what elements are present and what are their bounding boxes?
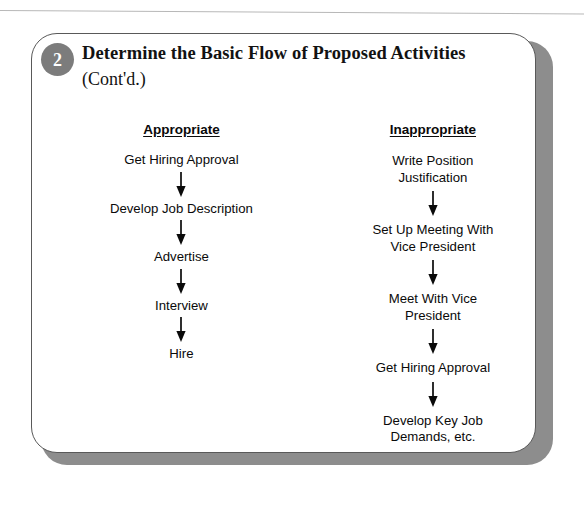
card-header: 2 Determine the Basic Flow of Proposed A… (32, 34, 535, 112)
flow-step: Get Hiring Approval (376, 360, 490, 377)
flow-step: Advertise (154, 249, 209, 266)
flow-step: Meet With Vice President (389, 291, 477, 324)
flow-step: Develop Key Job Demands, etc. (383, 413, 483, 446)
flow-arrow-icon (425, 260, 441, 286)
flow-column-appropriate: Appropriate Get Hiring Approval Develop … (32, 122, 331, 446)
flow-columns: Appropriate Get Hiring Approval Develop … (32, 122, 535, 446)
flow-arrow-icon (425, 191, 441, 217)
flow-arrow-icon (173, 269, 189, 295)
flow-arrow-icon (173, 317, 189, 343)
flow-arrow-icon (425, 382, 441, 408)
step-number-badge: 2 (41, 43, 74, 76)
flow-column-inappropriate: Inappropriate Write Position Justificati… (331, 122, 535, 446)
title-block: Determine the Basic Flow of Proposed Act… (82, 42, 522, 91)
page-subtitle: (Cont'd.) (82, 69, 522, 91)
flow-arrow-icon (173, 172, 189, 198)
flow-step: Set Up Meeting With Vice President (372, 222, 493, 255)
flow-arrow-icon (173, 220, 189, 246)
flow-step: Hire (169, 346, 193, 363)
flow-step: Write Position Justification (392, 153, 473, 186)
page-edge-line (0, 10, 584, 15)
slide-card: 2 Determine the Basic Flow of Proposed A… (31, 33, 536, 453)
column-header-appropriate: Appropriate (143, 122, 220, 138)
flow-step: Develop Job Description (110, 201, 253, 218)
page-title: Determine the Basic Flow of Proposed Act… (82, 42, 522, 65)
flow-step: Get Hiring Approval (124, 152, 238, 169)
flow-step: Interview (155, 298, 208, 315)
column-header-inappropriate: Inappropriate (390, 122, 476, 138)
flow-arrow-icon (425, 329, 441, 355)
